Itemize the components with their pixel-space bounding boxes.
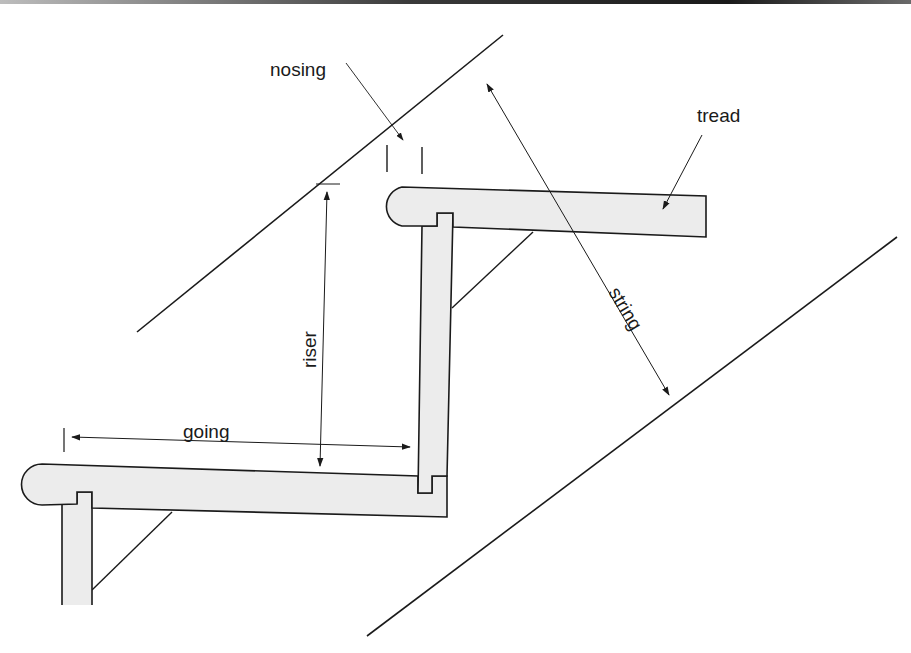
staircase-diagram: nosing tread string riser going bbox=[0, 0, 911, 653]
upper-riser bbox=[418, 213, 453, 493]
label-going: going bbox=[183, 421, 230, 442]
label-tread: tread bbox=[697, 105, 740, 126]
going-dimension-arrow bbox=[72, 437, 410, 447]
nosing-arrow bbox=[346, 63, 403, 140]
lower-bracket bbox=[92, 512, 172, 590]
label-riser: riser bbox=[299, 330, 320, 368]
label-nosing: nosing bbox=[270, 59, 326, 80]
lower-riser bbox=[62, 492, 92, 605]
label-string: string bbox=[605, 283, 647, 334]
upper-bracket bbox=[452, 232, 533, 308]
riser-dimension-arrow bbox=[320, 192, 327, 466]
string-dimension-arrow bbox=[487, 84, 669, 395]
